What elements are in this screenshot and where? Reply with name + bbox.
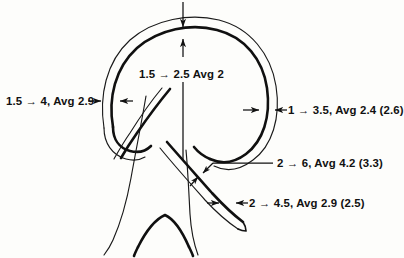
trunk-bifurcation-tail-left [134,247,138,256]
aortic-arch-diagram: 1.5 → 4, Avg 2.9 1.5 → 2.5 Avg 2 1 → 3.5… [0,0,404,258]
branch-lower-tip [238,222,246,231]
arch-inner-wall [111,27,268,162]
figure-container: 1.5 → 4, Avg 2.9 1.5 → 2.5 Avg 2 1 → 3.5… [0,0,404,258]
label-descending-aorta: 1 → 3.5, Avg 2.4 (2.6) [288,104,404,116]
vessel-outline-group [102,17,277,256]
arrow-branch-junction [190,177,198,186]
label-ascending-aorta: 1.5 → 4, Avg 2.9 [6,95,94,107]
arrow-branch-upper [203,163,213,173]
branch-upper-left-edge-outer [114,88,162,159]
trunk-bifurcation-tail-right [189,247,193,256]
label-arch-top: 1.5 → 2.5 Avg 2 [139,68,224,80]
annotation-text-group: 1.5 → 4, Avg 2.9 1.5 → 2.5 Avg 2 1 → 3.5… [6,68,404,209]
arch-right-terminal [194,147,210,159]
branch-lower-upper-edge [167,142,243,222]
branch-lower-lower-edge [160,148,238,229]
trunk-bifurcation [138,215,189,247]
label-branch-lower: 2 → 4.5, Avg 2.9 (2.5) [249,197,365,209]
trunk-left-wall [104,96,146,255]
label-branch-upper: 2 → 6, Avg 4.2 (3.3) [277,157,383,169]
